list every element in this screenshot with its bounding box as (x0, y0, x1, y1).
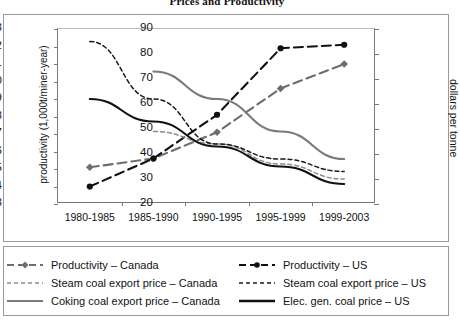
series-canvas (58, 29, 376, 204)
series-line (90, 42, 344, 172)
y-axis-left-tick-label: 7 (0, 126, 2, 138)
data-point-marker (341, 42, 347, 48)
y-axis-left-tick-label: 8 (0, 109, 2, 121)
y-axis-left-tick-label: 12 (0, 39, 2, 51)
legend-label: Coking coal export price – Canada (51, 295, 220, 307)
x-axis-tick-label: 1985-1990 (122, 211, 184, 223)
legend-item[interactable]: Productivity – US (237, 259, 449, 271)
legend-item[interactable]: Steam coal export price – Canada (5, 277, 237, 289)
legend-swatch (5, 295, 45, 307)
x-axis-tick-label: 1980-1985 (59, 211, 121, 223)
data-point-marker (340, 60, 348, 68)
y-axis-left-tick-mark (54, 204, 59, 205)
data-point-marker (278, 45, 284, 51)
y-axis-left-tick-label: 13 (0, 21, 2, 33)
y-axis-left-tick-label: 9 (0, 91, 2, 103)
legend-swatch (5, 259, 45, 271)
y-axis-right-tick-mark (374, 204, 379, 205)
data-point-marker (87, 183, 93, 189)
data-point-marker (213, 128, 221, 136)
chart-legend: Productivity – CanadaProductivity – USSt… (5, 256, 449, 312)
y-axis-right-title: dollars per tonne (446, 79, 460, 189)
legend-item[interactable]: Coking coal export price – Canada (5, 295, 237, 307)
series-line (153, 72, 344, 160)
legend-label: Elec. gen. coal price – US (283, 295, 410, 307)
plot-area: 34567891011121320304050607080901980-1985… (57, 28, 375, 203)
chart-title: Prices and Productivity (0, 0, 454, 7)
x-axis-tick-label: 1995-1999 (250, 211, 312, 223)
x-axis-tick-label: 1999-2003 (313, 211, 375, 223)
legend-label: Steam coal export price – US (283, 277, 426, 289)
legend-swatch (237, 259, 277, 271)
data-point-marker (277, 85, 285, 93)
y-axis-left-tick-label: 6 (0, 144, 2, 156)
legend-label: Productivity – Canada (51, 259, 159, 271)
y-axis-left-tick-label: 4 (0, 179, 2, 191)
y-axis-left-tick-label: 10 (0, 74, 2, 86)
data-point-marker (150, 155, 156, 161)
data-point-marker (214, 112, 220, 118)
legend-swatch (237, 295, 277, 307)
data-point-marker (86, 163, 94, 171)
y-axis-left-tick-label: 11 (0, 56, 2, 68)
legend-item[interactable]: Elec. gen. coal price – US (237, 295, 449, 307)
legend-swatch (5, 277, 45, 289)
y-axis-left-title: productivity (1,000t/miner-year) (38, 27, 52, 202)
legend-label: Productivity – US (283, 259, 367, 271)
legend-item[interactable]: Steam coal export price – US (237, 277, 449, 289)
y-axis-left-tick-label: 5 (0, 161, 2, 173)
legend-swatch (237, 277, 277, 289)
y-axis-left-tick-label: 3 (0, 196, 2, 208)
legend-label: Steam coal export price – Canada (51, 277, 217, 289)
legend-item[interactable]: Productivity – Canada (5, 259, 237, 271)
x-axis-tick-label: 1990-1995 (186, 211, 248, 223)
